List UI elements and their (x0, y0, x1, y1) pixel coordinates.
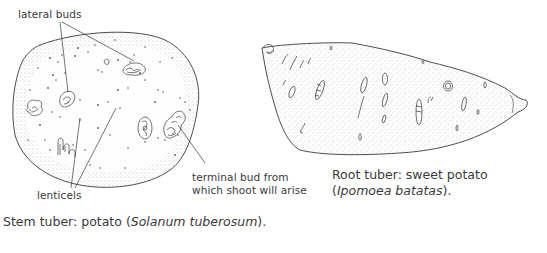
caption-stem-tuber-species: Solanum tuberosum (131, 214, 258, 229)
label-terminal-bud-line1: terminal bud from (192, 171, 289, 183)
caption-root-tuber-line1: Root tuber: sweet potato (332, 167, 488, 183)
caption-root-tuber-species: Ipomoea batatas (337, 183, 443, 198)
caption-stem-tuber: Stem tuber: potato (Solanum tuberosum). (3, 214, 266, 230)
caption-stem-tuber-prefix: Stem tuber: potato ( (3, 214, 131, 229)
sweet-potato-drawing (262, 43, 527, 155)
caption-stem-tuber-suffix: ). (257, 214, 266, 229)
potato-drawing (13, 22, 205, 188)
label-terminal-bud-line2: which shoot will arise (192, 184, 307, 196)
label-lenticels: lenticels (37, 189, 82, 201)
caption-root-tuber-suffix: ). (443, 183, 452, 198)
caption-root-tuber-line2: (Ipomoea batatas). (332, 183, 451, 199)
label-lateral-buds: lateral buds (18, 8, 82, 20)
